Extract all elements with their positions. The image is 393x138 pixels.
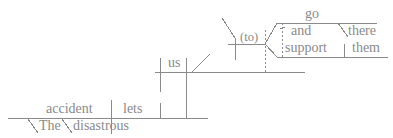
label-conjunction: and xyxy=(291,24,311,38)
bracket-upper-arm xyxy=(265,23,277,44)
label-infinitive-marker: (to) xyxy=(240,30,258,44)
label-object: us xyxy=(168,56,180,70)
label-object-two: them xyxy=(352,41,380,55)
label-verb-two: support xyxy=(285,41,327,55)
modifier-line-adjective xyxy=(62,119,72,133)
connector-infinitive-slant xyxy=(192,54,210,72)
label-adverb: there xyxy=(348,24,376,38)
label-adjective: disastrous xyxy=(73,119,129,133)
modifier-line-there xyxy=(338,23,348,37)
label-verb-one: go xyxy=(305,7,319,21)
sentence-diagram: accident The disastrous lets us (to) go … xyxy=(0,0,393,138)
bracket-lower-arm xyxy=(265,44,277,57)
label-main-verb: lets xyxy=(123,102,142,116)
modifier-line-article xyxy=(28,119,38,133)
label-article: The xyxy=(39,119,61,133)
label-subject: accident xyxy=(46,102,93,116)
infinitive-left-slant xyxy=(222,18,235,38)
